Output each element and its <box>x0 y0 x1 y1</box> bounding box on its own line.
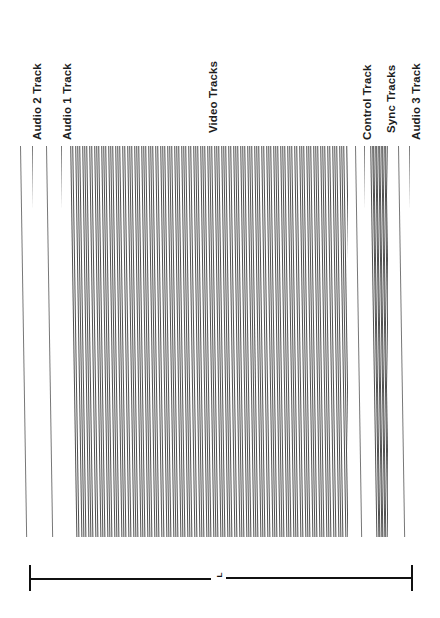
track-edge-line <box>355 146 362 537</box>
track-edge-line <box>364 146 365 537</box>
dimension-line-right-segment <box>226 577 413 579</box>
track-band-video-band <box>70 146 348 537</box>
track-edge-line <box>398 146 405 537</box>
track-edge-line <box>32 146 33 537</box>
track-band-audio-3-band <box>398 146 410 537</box>
track-field <box>0 0 440 618</box>
track-edge-line <box>61 146 62 537</box>
track-band-control-band <box>355 146 365 537</box>
track-band-sync-band <box>370 146 388 537</box>
track-edge-line <box>409 146 410 537</box>
track-edge-line <box>20 146 27 537</box>
track-band-audio-1-band <box>46 146 62 537</box>
dimension-line-left-segment <box>29 578 211 580</box>
track-band-audio-2-band <box>20 146 33 537</box>
videotape-track-layout-figure: Audio 2 TrackAudio 1 TrackVideo TracksCo… <box>0 0 440 618</box>
track-edge-line <box>46 146 53 537</box>
dimension-label-length: L <box>216 573 224 578</box>
